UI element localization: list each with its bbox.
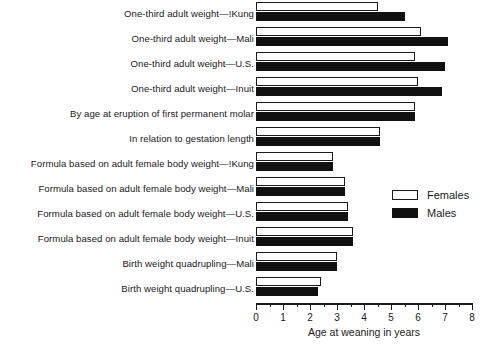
axis-tick-major (310, 303, 311, 310)
axis-tick-label: 7 (442, 312, 448, 323)
axis-tick-minor (405, 303, 406, 307)
axis-tick-label: 3 (334, 312, 340, 323)
bar-males (256, 37, 448, 46)
chart-row: By age at eruption of first permanent mo… (0, 100, 487, 125)
bar-females (256, 152, 333, 161)
bar-males (256, 262, 337, 271)
category-label: One-third adult weight—U.S. (131, 57, 254, 68)
chart-row: One-third adult weight—!Kung (0, 0, 487, 25)
axis-tick-label: 5 (388, 312, 394, 323)
category-label: In relation to gestation length (129, 132, 254, 143)
x-axis-title: Age at weaning in years (256, 326, 472, 338)
axis-tick-minor (459, 303, 460, 307)
axis-tick-minor (324, 303, 325, 307)
category-label: Formula based on adult female body weigh… (37, 207, 254, 218)
category-label: Formula based on adult female body weigh… (38, 182, 254, 193)
axis-tick-label: 6 (415, 312, 421, 323)
bar-males (256, 62, 445, 71)
bar-males (256, 162, 333, 171)
legend-swatch-female (392, 190, 418, 200)
chart-rows: One-third adult weight—!KungOne-third ad… (0, 0, 487, 300)
axis-tick-major (256, 303, 257, 310)
category-label: One-third adult weight—Mali (132, 32, 254, 43)
axis-tick-minor (351, 303, 352, 307)
axis-tick-label: 1 (280, 312, 286, 323)
bar-females (256, 102, 415, 111)
chart-row: Birth weight quadrupling—U.S. (0, 275, 487, 300)
category-label: By age at eruption of first permanent mo… (70, 107, 254, 118)
chart-row: Formula based on adult female body weigh… (0, 225, 487, 250)
bar-females (256, 127, 380, 136)
chart-row: Birth weight quadrupling—Mali (0, 250, 487, 275)
axis-tick-major (472, 303, 473, 310)
bar-males (256, 187, 345, 196)
chart-row: One-third adult weight—Mali (0, 25, 487, 50)
bar-females (256, 227, 353, 236)
bar-females (256, 27, 421, 36)
bar-females (256, 252, 337, 261)
category-label: Formula based on adult female body weigh… (38, 232, 254, 243)
bar-males (256, 87, 442, 96)
axis-tick-label: 2 (307, 312, 313, 323)
axis-tick-major (337, 303, 338, 310)
chart-row: Formula based on adult female body weigh… (0, 150, 487, 175)
chart-row: In relation to gestation length (0, 125, 487, 150)
x-axis: 012345678 (256, 303, 472, 305)
axis-tick-label: 4 (361, 312, 367, 323)
bar-females (256, 177, 345, 186)
legend-item: Males (392, 204, 469, 222)
axis-tick-minor (270, 303, 271, 307)
chart-row: One-third adult weight—Inuit (0, 75, 487, 100)
bar-males (256, 237, 353, 246)
legend-swatch-male (392, 208, 418, 218)
axis-tick-major (418, 303, 419, 310)
axis-tick-major (283, 303, 284, 310)
bar-males (256, 287, 318, 296)
bar-females (256, 77, 418, 86)
chart-legend: FemalesMales (392, 186, 469, 222)
bar-males (256, 212, 348, 221)
legend-label: Males (427, 207, 456, 219)
legend-item: Females (392, 186, 469, 204)
weaning-age-bar-chart: One-third adult weight—!KungOne-third ad… (0, 0, 487, 349)
bar-females (256, 277, 321, 286)
axis-tick-minor (432, 303, 433, 307)
bar-males (256, 112, 415, 121)
axis-tick-major (391, 303, 392, 310)
category-label: One-third adult weight—!Kung (124, 7, 254, 18)
legend-label: Females (427, 189, 469, 201)
category-label: Birth weight quadrupling—U.S. (121, 282, 254, 293)
bar-females (256, 202, 348, 211)
category-label: Formula based on adult female body weigh… (31, 157, 254, 168)
bar-males (256, 137, 380, 146)
bar-females (256, 2, 378, 11)
axis-tick-major (364, 303, 365, 310)
bar-males (256, 12, 405, 21)
category-label: Birth weight quadrupling—Mali (122, 257, 254, 268)
chart-row: One-third adult weight—U.S. (0, 50, 487, 75)
axis-tick-minor (378, 303, 379, 307)
axis-tick-label: 8 (469, 312, 475, 323)
axis-tick-major (445, 303, 446, 310)
bar-females (256, 52, 415, 61)
axis-tick-label: 0 (253, 312, 259, 323)
category-label: One-third adult weight—Inuit (131, 82, 254, 93)
axis-tick-minor (297, 303, 298, 307)
